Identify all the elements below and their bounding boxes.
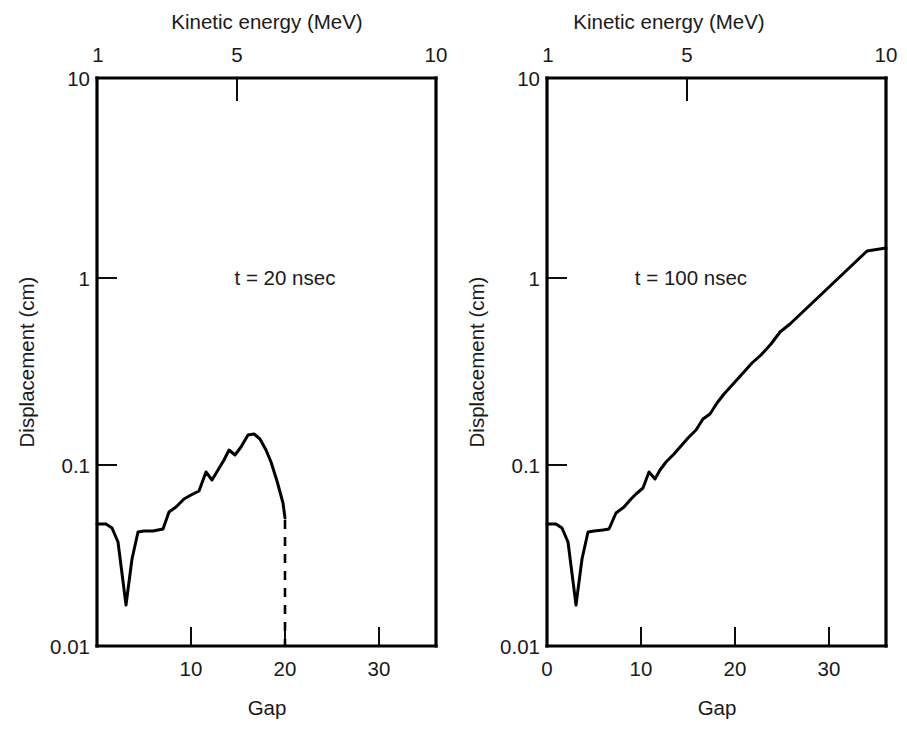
y-tick-label-0.1-left: 0.1 xyxy=(62,454,91,477)
y-tick-label-0.01-right: 0.01 xyxy=(500,635,540,658)
x-tick-label-10-right: 10 xyxy=(630,657,653,680)
y-axis-title-left: Displacement (cm) xyxy=(15,277,38,448)
y-tick-label-1-right: 1 xyxy=(529,267,540,290)
x-tick-label-20-left: 20 xyxy=(274,657,297,680)
top-tick-label-10-left: 10 xyxy=(425,43,448,66)
y-tick-label-10-left: 10 xyxy=(67,67,90,90)
x-tick-label-30-left: 30 xyxy=(368,657,391,680)
top-tick-label-5-right: 5 xyxy=(681,43,692,66)
annotation-time-right: t = 100 nsec xyxy=(635,266,747,289)
panel-right: Kinetic energy (MeV) 1 5 10 10 1 0.1 0.0… xyxy=(453,0,906,742)
panel-right-canvas: Kinetic energy (MeV) 1 5 10 10 1 0.1 0.0… xyxy=(453,0,906,742)
y-axis-title-right: Displacement (cm) xyxy=(465,277,488,448)
y-tick-label-10-right: 10 xyxy=(517,67,540,90)
x-tick-label-0-right: 0 xyxy=(541,657,552,680)
top-tick-label-1-right: 1 xyxy=(542,43,553,66)
x-tick-label-20-right: 20 xyxy=(724,657,747,680)
annotation-time-left: t = 20 nsec xyxy=(235,266,336,289)
figure-two-panel-displacement-vs-gap: Kinetic energy (MeV) 1 5 10 10 1 0.1 0.0… xyxy=(0,0,907,742)
panel-left-canvas: Kinetic energy (MeV) 1 5 10 10 1 0.1 0.0… xyxy=(0,0,453,742)
top-axis-title-right: Kinetic energy (MeV) xyxy=(573,10,764,33)
y-tick-label-0.1-right: 0.1 xyxy=(512,454,541,477)
x-tick-label-30-right: 30 xyxy=(818,657,841,680)
data-curve-left xyxy=(97,434,285,605)
top-tick-label-5-left: 5 xyxy=(231,43,242,66)
data-curve-right xyxy=(547,248,886,605)
y-tick-label-1-left: 1 xyxy=(79,267,90,290)
x-axis-title-right: Gap xyxy=(698,696,737,719)
panel-left: Kinetic energy (MeV) 1 5 10 10 1 0.1 0.0… xyxy=(0,0,453,742)
x-axis-title-left: Gap xyxy=(248,696,287,719)
top-tick-label-10-right: 10 xyxy=(875,43,898,66)
x-tick-label-10-left: 10 xyxy=(180,657,203,680)
top-axis-title-left: Kinetic energy (MeV) xyxy=(171,10,362,33)
top-tick-label-1-left: 1 xyxy=(92,43,103,66)
y-tick-label-0.01-left: 0.01 xyxy=(50,635,90,658)
